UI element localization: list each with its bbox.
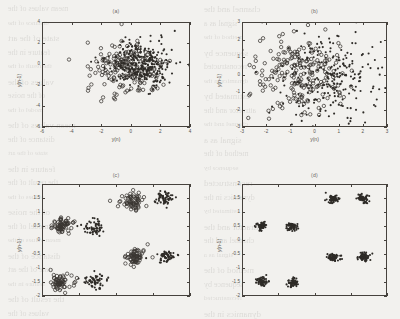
- panel-d: (d)-2-1.5-1-0.500.511.52y(n-1): [0, 0, 400, 319]
- figure-four-panel-scatter: (a)-6-4-2024-6-4-2024y(n-1)y(n)(b)-3-2-1…: [0, 0, 400, 319]
- scatter-points-d: [0, 0, 400, 319]
